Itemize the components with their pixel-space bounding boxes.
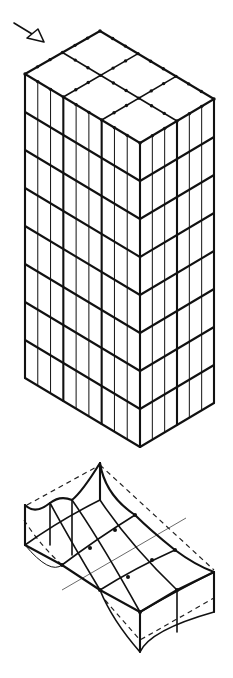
load-arrow-icon [14, 23, 44, 42]
structural-diagram [0, 0, 233, 678]
tower-grid [23, 29, 215, 447]
deformed-slab [24, 463, 214, 652]
